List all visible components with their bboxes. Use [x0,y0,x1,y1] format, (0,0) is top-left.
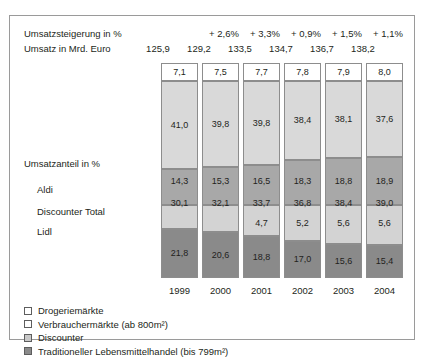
year-label-2001: 2001 [243,284,280,298]
bar-2004[interactable]: 8,0 37,6 15,4 18,9 39,0 5,6 [366,63,403,278]
segment-drogerie-2003: 7,9 [325,63,362,81]
revenue-growth-2002: + 0,9% [283,26,329,41]
legend-swatch-icon-discounter [24,334,32,342]
segment-aldi-2001 [243,165,280,205]
segment-aldi-1999 [161,169,198,205]
share-axis-label: Umsatzanteil in % [24,158,100,170]
legend-swatch-icon-verbrauchermaerkte [24,320,32,328]
legend-swatch-icon-traditioneller-lebensmittelhandel [24,347,32,355]
bar-2000[interactable]: 7,5 39,8 20,6 15,3 32,1 [202,63,239,278]
chart-frame: Umsatzsteigerung in % + 2,6% + 3,3% + 0,… [9,15,415,340]
segment-drogerie-2000: 7,5 [202,63,239,81]
legend-label-traditioneller-lebensmittelhandel: Traditioneller Lebensmittelhandel (bis 7… [38,346,228,357]
bar-2002[interactable]: 7,8 38,4 17,0 18,3 36,8 5,2 [284,63,321,278]
legend-item-traditioneller-lebensmittelhandel[interactable]: Traditioneller Lebensmittelhandel (bis 7… [24,345,404,359]
revenue-1999: 125,9 [135,41,181,56]
bar-2003[interactable]: 7,9 38,1 15,6 18,8 38,4 5,6 [325,63,362,278]
bar-2001[interactable]: 7,7 39,8 18,8 16,5 33,7 4,7 [243,63,280,278]
bar-1999[interactable]: 7,1 41,0 21,8 14,3 30,1 [161,63,198,278]
aldi-row-label: Aldi [37,184,53,196]
year-label-2002: 2002 [284,284,321,298]
segment-verbrauch-2000: 39,8 [202,81,239,167]
year-axis: 1999 2000 2001 2002 2003 2004 [157,284,415,298]
segment-discounter-1999 [161,205,198,229]
revenue-growth-row: Umsatzsteigerung in % + 2,6% + 3,3% + 0,… [10,26,414,41]
chart-root: Umsatzsteigerung in % + 2,6% + 3,3% + 0,… [0,0,428,361]
discounter-total-row-label: Discounter Total [37,206,105,218]
revenue-2002: 134,7 [258,41,304,56]
year-label-2003: 2003 [325,284,362,298]
segment-traditionell-2000: 20,6 [202,232,239,278]
segment-discounter-2004 [366,205,403,245]
year-label-2000: 2000 [202,284,239,298]
stacked-bar-plot: 7,1 41,0 21,8 14,3 30,1 7,5 39,8 20,6 15… [157,63,415,278]
segment-discounter-2003 [325,205,362,244]
legend-item-drogeriemaerkte[interactable]: Drogeriemärkte [24,304,404,318]
revenue-label: Umsatz in Mrd. Euro [24,41,111,56]
legend-item-discounter[interactable]: Discounter [24,331,404,345]
revenue-row: Umsatz in Mrd. Euro 125,9 129,2 133,5 13… [10,41,414,56]
revenue-2004: 138,2 [340,41,386,56]
segment-verbrauch-2004: 37,6 [366,81,403,157]
segment-drogerie-1999: 7,1 [161,63,198,81]
segment-traditionell-2003: 15,6 [325,244,362,278]
segment-aldi-2000 [202,167,239,205]
segment-traditionell-2002: 17,0 [284,241,321,278]
segment-traditionell-2004: 15,4 [366,245,403,278]
legend-label-verbrauchermaerkte: Verbrauchermärkte (ab 800m²) [38,319,168,330]
segment-aldi-2002 [284,160,321,205]
legend-item-verbrauchermaerkte[interactable]: Verbrauchermärkte (ab 800m²) [24,318,404,332]
segment-drogerie-2002: 7,8 [284,63,321,81]
segment-verbrauch-2003: 38,1 [325,81,362,158]
segment-aldi-2003 [325,158,362,205]
legend-swatch-icon-drogeriemaerkte [24,307,32,315]
revenue-growth-2004: + 1,1% [365,26,411,41]
segment-aldi-2004 [366,157,403,205]
segment-discounter-2002 [284,205,321,241]
lidl-row-label: Lidl [37,226,52,238]
segment-verbrauch-2001: 39,8 [243,81,280,165]
legend-label-drogeriemaerkte: Drogeriemärkte [38,305,103,316]
revenue-growth-2000: + 2,6% [201,26,247,41]
year-label-2004: 2004 [366,284,403,298]
segment-discounter-2001 [243,205,280,236]
revenue-growth-2003: + 1,5% [324,26,370,41]
revenue-2000: 129,2 [176,41,222,56]
revenue-2001: 133,5 [217,41,263,56]
segment-verbrauch-2002: 38,4 [284,81,321,160]
chart-legend: Drogeriemärkte Verbrauchermärkte (ab 800… [24,304,404,358]
segment-traditionell-1999: 21,8 [161,229,198,278]
segment-drogerie-2001: 7,7 [243,63,280,81]
segment-verbrauch-1999: 41,0 [161,81,198,169]
segment-drogerie-2004: 8,0 [366,63,403,81]
revenue-growth-label: Umsatzsteigerung in % [24,26,122,41]
revenue-2003: 136,7 [299,41,345,56]
legend-label-discounter: Discounter [38,332,83,343]
segment-traditionell-2001: 18,8 [243,236,280,278]
year-label-1999: 1999 [161,284,198,298]
revenue-growth-2001: + 3,3% [242,26,288,41]
segment-discounter-2000 [202,205,239,232]
